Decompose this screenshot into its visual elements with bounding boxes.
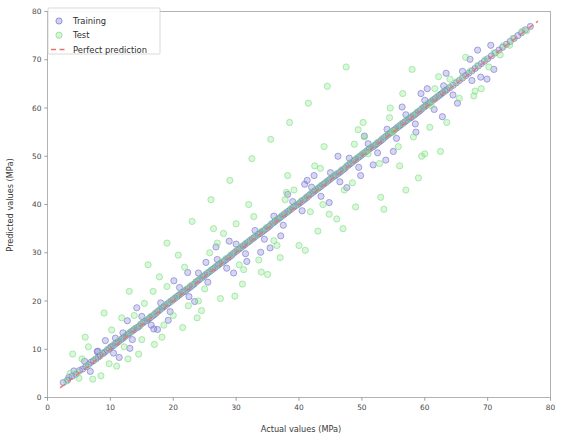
x-tick-label: 10 <box>106 403 116 412</box>
data-point <box>67 370 73 376</box>
data-point <box>378 194 384 200</box>
data-point <box>151 326 157 332</box>
data-point <box>302 247 308 253</box>
data-point <box>159 334 165 340</box>
data-point <box>280 222 286 228</box>
data-point <box>90 376 96 382</box>
data-point <box>324 83 330 89</box>
data-point <box>164 283 170 289</box>
data-point <box>349 180 355 186</box>
y-tick-label: 0 <box>37 393 42 402</box>
data-point <box>415 175 421 181</box>
data-point <box>463 54 469 60</box>
data-point <box>82 334 88 340</box>
data-point <box>390 148 396 154</box>
data-point <box>400 90 406 96</box>
scatter-plot-figure: 01020304050607080 01020304050607080 Actu… <box>0 0 561 439</box>
data-point <box>136 351 142 357</box>
data-point <box>249 156 255 162</box>
legend-label: Perfect prediction <box>73 45 147 55</box>
data-point <box>278 233 284 239</box>
data-point <box>351 141 357 147</box>
data-point <box>409 66 415 72</box>
data-point <box>335 153 341 159</box>
data-point <box>186 294 192 300</box>
legend-label: Training <box>72 16 106 26</box>
data-point <box>109 327 115 333</box>
data-point <box>277 254 283 260</box>
data-point <box>125 356 131 362</box>
data-point <box>124 318 130 324</box>
data-point <box>370 162 376 168</box>
data-point <box>131 312 137 318</box>
data-point <box>474 62 480 68</box>
data-point <box>227 177 233 183</box>
data-point <box>282 197 288 203</box>
data-point <box>102 337 108 343</box>
data-point <box>198 308 204 314</box>
x-tick-label: 60 <box>420 403 430 412</box>
data-point <box>231 270 237 276</box>
data-point <box>439 114 445 120</box>
y-tick-label: 30 <box>32 248 42 257</box>
data-point <box>410 134 416 140</box>
data-point <box>399 104 405 110</box>
data-point <box>121 344 127 350</box>
data-point <box>299 208 305 214</box>
y-tick-label: 40 <box>32 200 42 209</box>
data-point <box>126 288 132 294</box>
data-point <box>119 315 125 321</box>
data-point <box>437 148 443 154</box>
data-point <box>334 216 340 222</box>
data-point <box>214 240 220 246</box>
data-point <box>360 119 366 125</box>
data-point <box>286 119 292 125</box>
data-point <box>129 337 135 343</box>
data-point <box>258 249 264 255</box>
data-point <box>189 218 195 224</box>
legend-marker-swatch <box>56 18 62 24</box>
data-point <box>467 68 473 74</box>
data-point <box>70 351 76 357</box>
data-point <box>469 77 475 83</box>
data-point <box>264 271 270 277</box>
data-point <box>208 197 214 203</box>
data-point <box>376 160 382 166</box>
data-point <box>326 211 332 217</box>
data-point <box>315 228 321 234</box>
data-point <box>224 265 230 271</box>
data-point <box>305 100 311 106</box>
data-point <box>358 172 364 178</box>
data-point <box>150 288 156 294</box>
data-point <box>393 135 399 141</box>
plot-canvas: 01020304050607080 01020304050607080 Actu… <box>0 0 561 439</box>
data-point <box>484 76 490 82</box>
data-point <box>478 74 484 80</box>
data-point <box>312 163 318 169</box>
data-point <box>478 86 484 92</box>
data-point <box>267 245 273 251</box>
legend-label: Test <box>72 30 90 40</box>
data-point <box>139 337 145 343</box>
data-point <box>210 226 216 232</box>
data-point <box>459 68 465 74</box>
data-point <box>352 204 358 210</box>
data-point <box>383 157 389 163</box>
legend: TrainingTestPerfect prediction <box>48 8 160 55</box>
data-point <box>258 269 264 275</box>
data-point <box>296 242 302 248</box>
data-point <box>87 368 93 374</box>
data-point <box>361 134 367 140</box>
data-point <box>435 74 441 80</box>
data-point <box>427 124 433 130</box>
data-point <box>217 295 223 301</box>
data-point <box>456 95 462 101</box>
x-tick-label: 0 <box>45 403 50 412</box>
data-point <box>170 312 176 318</box>
data-point <box>497 52 503 58</box>
data-point <box>116 354 122 360</box>
data-point <box>274 242 280 248</box>
y-tick-label: 50 <box>32 152 42 161</box>
data-point <box>268 136 274 142</box>
data-point <box>443 70 449 76</box>
